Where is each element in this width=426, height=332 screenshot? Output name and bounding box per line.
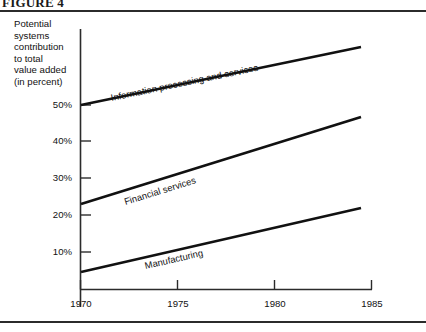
y-axis-caption-line-2: systems	[14, 30, 80, 42]
y-axis-caption-line-6: (in percent)	[14, 76, 80, 88]
x-tick-label-1980: 1980	[251, 298, 299, 309]
y-axis-caption-line-4: to total	[14, 53, 80, 65]
y-tick-label-30: 30%	[20, 172, 72, 183]
series-line-manufacturing	[81, 208, 361, 272]
footer-divider	[0, 321, 426, 323]
y-axis-caption-line-1: Potential	[14, 18, 80, 30]
y-axis-caption-line-5: value added	[14, 64, 80, 76]
y-axis-caption-line-3: contribution	[14, 41, 80, 53]
y-tick-marks	[81, 105, 92, 252]
y-tick-label-20: 20%	[20, 209, 72, 220]
y-tick-label-10: 10%	[20, 246, 72, 257]
y-tick-label-40: 40%	[20, 135, 72, 146]
x-tick-label-1985: 1985	[348, 298, 396, 309]
x-tick-label-1975: 1975	[154, 298, 202, 309]
y-axis-caption: Potential systems contribution to total …	[14, 18, 80, 88]
x-tick-marks	[81, 280, 372, 290]
x-tick-label-1970: 1970	[57, 298, 105, 309]
y-tick-label-50: 50%	[20, 99, 72, 110]
series-line-financial-services	[81, 117, 361, 204]
